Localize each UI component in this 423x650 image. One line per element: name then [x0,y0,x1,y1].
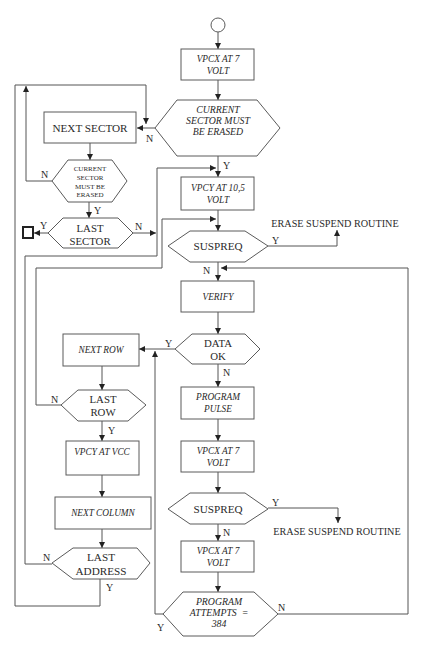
sector-check-main-line1: CURRENT [196,104,241,115]
erase-flowchart: VPCX AT 7 VOLT CURRENT SECTOR MUST BE ER… [0,0,423,650]
last-address-line1: LAST [87,551,115,563]
vpcx-7-top-line1: VPCX AT 7 [197,54,240,64]
sector-check-small-line4: ERASED [76,191,103,199]
last-sector-line2: SECTOR [69,235,111,247]
next-column-label: NEXT COLUMN [70,508,135,518]
edge-label-last-sector-yes: Y [40,220,47,231]
edge-label-last-address-no: N [43,552,50,563]
edge-label-sector-check-main-no: N [146,133,153,144]
edge-label-sector-check-main-yes: Y [223,160,230,171]
vpcx-7-mid-line2: VOLT [207,458,230,468]
edge-label-suspreq-1-yes: Y [272,235,279,246]
next-sector-label: NEXT SECTOR [52,122,128,134]
edge-label-data-ok-yes: Y [165,338,172,349]
last-address-line2: ADDRESS [76,565,127,577]
vpcx-7-mid-line1: VPCX AT 7 [197,446,240,456]
sector-check-small-line2: SECTOR [77,174,104,182]
edge-label-last-row-no: N [51,394,58,405]
edge-label-sector-check-small-no: N [41,169,48,180]
program-attempts-line1: PROGRAM [195,596,243,607]
program-pulse-line2: PULSE [203,404,232,414]
edge-label-suspreq-1-no: N [203,265,210,276]
vpcx-7-bottom-line2: VOLT [207,558,230,568]
last-row-line1: LAST [90,393,117,405]
vpcx-7-bottom-line1: VPCX AT 7 [197,546,240,556]
data-ok-line1: DATA [204,337,232,349]
program-attempts-line2: ATTEMPTS = [189,607,249,618]
edge-label-sector-check-small-yes: Y [94,205,101,216]
sector-check-small-line1: CURRENT [74,165,107,173]
edge-label-program-attempts-no: N [278,602,285,613]
edge-label-last-address-yes: Y [106,582,113,593]
end-terminal-icon [23,227,33,238]
next-row-label: NEXT ROW [77,345,124,355]
edge-label-last-sector-no: N [135,221,142,232]
edge-label-last-row-yes: Y [108,425,115,436]
program-attempts-line3: 384 [211,618,227,629]
erase-suspend-routine-2: ERASE SUSPEND ROUTINE [273,526,400,537]
vpcy-10-5-line2: VOLT [207,195,230,205]
suspreq-2-label: SUSPREQ [193,503,242,515]
sector-check-small-line3: MUST BE [75,183,105,191]
verify-label: VERIFY [203,292,235,302]
edge-label-program-attempts-yes: Y [157,622,164,633]
suspreq-1-label: SUSPREQ [193,240,242,252]
edge-label-data-ok-no: N [223,367,230,378]
sector-check-main-line2: SECTOR MUST [186,115,251,126]
sector-check-main-line3: BE ERASED [193,126,243,137]
program-pulse-line1: PROGRAM [195,392,241,402]
vpcy-vcc-label: VPCY AT VCC [74,447,130,457]
last-row-line2: ROW [90,406,116,418]
start-terminal-icon [211,18,225,32]
node-vpcy-10-5 [181,177,254,210]
edge-label-suspreq-2-yes: Y [272,497,279,508]
last-sector-line1: LAST [77,222,104,234]
edge-label-suspreq-2-no: N [223,527,230,538]
data-ok-line2: OK [210,350,226,362]
vpcy-10-5-line1: VPCY AT 10,5 [191,183,245,193]
vpcx-7-top-line2: VOLT [207,66,230,76]
erase-suspend-routine-1: ERASE SUSPEND ROUTINE [271,218,398,229]
